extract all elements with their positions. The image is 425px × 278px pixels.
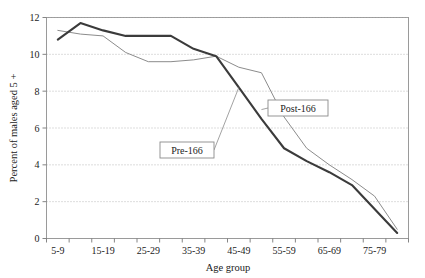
x-tick-label: 45-49 — [227, 245, 250, 256]
y-tick-label: 0 — [35, 233, 40, 244]
y-tick-label: 2 — [35, 196, 40, 207]
y-tick-label: 4 — [35, 159, 40, 170]
x-tick-label: 55-59 — [272, 245, 295, 256]
x-axis-tick-labels: 5-915-1925-2935-3945-4955-5965-6975-79 — [51, 245, 386, 256]
y-axis-ticks — [43, 18, 47, 239]
y-tick-label: 6 — [35, 123, 40, 134]
callout-label: Pre-166 — [171, 145, 203, 156]
y-tick-label: 12 — [30, 12, 40, 23]
x-tick-label: 65-69 — [318, 245, 341, 256]
x-tick-label: 35-39 — [182, 245, 205, 256]
y-axis-tick-labels: 024681012 — [30, 12, 40, 244]
x-tick-label: 15-19 — [91, 245, 114, 256]
line-chart: 024681012 5-915-1925-2935-3945-4955-5965… — [0, 0, 425, 278]
callout-label: Post-166 — [280, 103, 316, 114]
x-tick-label: 25-29 — [137, 245, 160, 256]
x-tick-label: 5-9 — [51, 245, 64, 256]
chart-svg: 024681012 5-915-1925-2935-3945-4955-5965… — [0, 0, 425, 278]
x-axis-ticks — [47, 239, 409, 243]
x-tick-label: 75-79 — [363, 245, 386, 256]
y-axis-title: Percent of males aged 5 + — [8, 74, 19, 183]
y-tick-label: 8 — [35, 86, 40, 97]
x-axis-title: Age group — [206, 262, 251, 273]
y-tick-label: 10 — [30, 49, 40, 60]
